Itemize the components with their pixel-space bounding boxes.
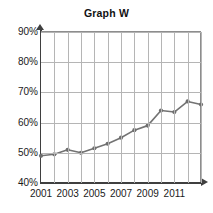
plot-area (41, 31, 201, 182)
chart-screenshot: Graph W 40%50%60%70%80%90% 2001200320052… (0, 0, 213, 213)
gridline-vertical (174, 32, 175, 183)
y-axis-tick-label: 90% (2, 26, 38, 37)
y-axis-tick-label: 80% (2, 56, 38, 67)
x-axis-tick-label: 2009 (137, 188, 159, 199)
x-axis-tick-label: 2007 (110, 188, 132, 199)
y-axis-tick-label: 40% (2, 177, 38, 188)
gridline-vertical (68, 32, 69, 183)
gridline-vertical (161, 32, 162, 183)
gridline-vertical (201, 32, 202, 183)
y-axis-tick-label: 70% (2, 86, 38, 97)
gridline-vertical (81, 32, 82, 183)
gridline-vertical (188, 32, 189, 183)
x-axis-tick-label: 2005 (83, 188, 105, 199)
gridline-vertical (121, 32, 122, 183)
gridline-vertical (148, 32, 149, 183)
x-axis-arrow-icon (201, 178, 208, 186)
gridline-vertical (108, 32, 109, 183)
y-axis-tick-label: 60% (2, 116, 38, 127)
x-axis-tick-label: 2003 (57, 188, 79, 199)
gridline-vertical (54, 32, 55, 183)
x-axis-tick-label: 2001 (30, 188, 52, 199)
x-axis-tick-label: 2011 (164, 188, 186, 199)
gridline-vertical (134, 32, 135, 183)
y-axis-tick-labels: 40%50%60%70%80%90% (0, 0, 38, 213)
y-axis-tick-label: 50% (2, 146, 38, 157)
data-point-marker (39, 154, 43, 158)
gridline-vertical (94, 32, 95, 183)
